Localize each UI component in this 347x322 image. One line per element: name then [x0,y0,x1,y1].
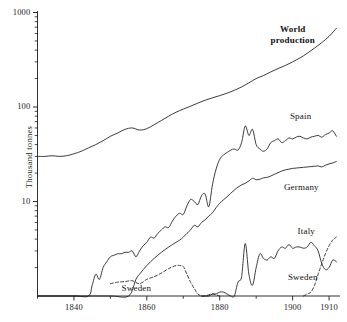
world-label-line2: production [271,35,315,45]
axis-ticks [33,13,329,301]
x-tick-label-1880: 1880 [204,302,236,312]
data-series-group [38,28,337,297]
y-tick-label-100: 100 [17,101,30,111]
series-label-italy: Italy [298,226,316,236]
series-path-world-production [38,28,337,156]
series-path-italy [202,242,337,297]
x-tick-label-1900: 1900 [277,302,309,312]
x-tick-label-1840: 1840 [58,302,90,312]
series-label-germany: Germany [284,182,319,192]
world-label-line1: World [280,24,306,34]
x-tick-label-1860: 1860 [131,302,163,312]
y-tick-label-10: 10 [22,196,31,206]
axis-lines [38,11,341,296]
y-tick-label-1000: 1000 [13,7,31,17]
production-chart-figure: Thousand tonnes 101001000 18401860188019… [0,0,347,322]
series-label-sweden-left: Sweden [122,283,152,293]
series-label-sweden-right: Sweden [288,272,318,282]
series-label-spain: Spain [290,111,312,121]
series-label-world-production: World production [271,24,315,46]
x-tick-label-1910: 1910 [313,302,345,312]
